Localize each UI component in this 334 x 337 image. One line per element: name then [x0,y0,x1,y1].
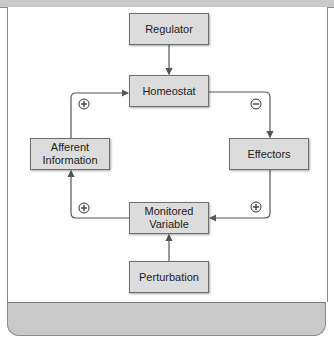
node-label: Perturbation [139,271,199,284]
node-monitored-variable: Monitored Variable [129,202,209,234]
node-label: Effectors [247,148,290,161]
minus-sign-icon-homeostat-effectors [251,99,261,109]
node-homeostat: Homeostat [129,75,209,107]
node-perturbation: Perturbation [129,261,209,293]
arrow-afferent-homeostat [71,93,128,138]
plus-sign-icon-monitored-afferent [79,203,89,213]
node-afferent-information: Afferent Information [30,138,110,170]
plus-sign-icon-afferent-homeostat [79,99,89,109]
arrow-effectors-monitored [210,170,270,218]
node-label: Homeostat [142,85,195,98]
plus-sign-icon-effectors-monitored [251,202,261,212]
node-label: Afferent Information [40,141,100,167]
node-effectors: Effectors [229,138,309,170]
node-label: Regulator [145,23,193,36]
node-label: Monitored Variable [141,205,197,231]
arrow-homeostat-effectors [209,92,270,137]
node-regulator: Regulator [129,13,209,45]
figure-frame: Regulator Homeostat Afferent Information… [0,0,334,337]
